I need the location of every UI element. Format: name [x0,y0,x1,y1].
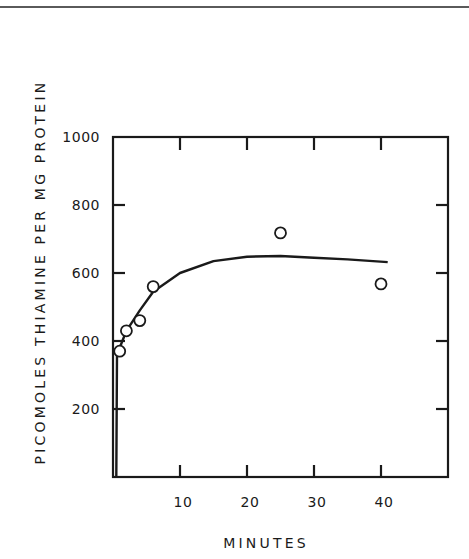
x-tick-label: 20 [241,494,260,510]
y-axis-ticks: 2004006008001000 [62,129,448,417]
data-points [114,227,386,356]
data-point-marker [275,227,286,238]
x-axis-ticks: 10203040 [174,137,394,510]
y-tick-label: 400 [72,333,100,349]
data-point-marker [121,325,132,336]
y-tick-label: 800 [72,197,100,213]
x-tick-label: 40 [375,494,394,510]
x-tick-label: 30 [308,494,327,510]
plot-frame [113,137,448,477]
data-point-marker [114,346,125,357]
y-tick-label: 200 [72,401,100,417]
data-point-marker [148,281,159,292]
y-tick-label: 1000 [62,129,100,145]
y-axis-title: PICOMOLES THIAMINE PER MG PROTEIN [32,80,48,465]
chart: 10203040 2004006008001000 MINUTES PICOMO… [0,0,469,559]
x-axis-title: MINUTES [223,535,309,551]
x-tick-label: 10 [174,494,193,510]
y-tick-label: 600 [72,265,100,281]
data-point-marker [134,315,145,326]
data-point-marker [376,278,387,289]
